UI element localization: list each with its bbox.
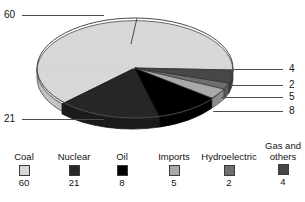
legend-value-imports: 5	[152, 178, 196, 188]
legend-swatch-imports	[169, 165, 180, 176]
legend-value-oil: 8	[104, 178, 140, 188]
legend-label-oil: Oil	[104, 152, 140, 163]
callout-value-imports: 5	[289, 92, 295, 102]
legend-swatch-nuclear	[69, 165, 80, 176]
callout-value-gas-and-others: 4	[289, 64, 295, 74]
legend-item-coal: Coal 60	[2, 152, 46, 188]
legend-swatch-hydroelectric	[224, 165, 235, 176]
pie-chart-graphic	[0, 0, 305, 145]
legend-label-imports: Imports	[152, 152, 196, 163]
legend-item-hydroelectric: Hydroelectric 2	[196, 152, 262, 188]
chart-legend: Coal 60 Nuclear 21 Oil 8 Imports 5 Hydro…	[0, 146, 305, 202]
leader-line-imports	[221, 97, 283, 98]
legend-value-hydroelectric: 2	[196, 178, 262, 188]
leader-line-oil	[213, 111, 283, 112]
legend-swatch-coal	[19, 165, 30, 176]
leader-line-coal	[22, 15, 104, 16]
legend-value-gas-and-others: 4	[262, 177, 304, 187]
callout-value-nuclear: 21	[4, 114, 15, 124]
legend-label-nuclear: Nuclear	[46, 152, 102, 163]
legend-item-oil: Oil 8	[104, 152, 140, 188]
callout-value-hydroelectric: 2	[289, 80, 295, 90]
legend-value-nuclear: 21	[46, 178, 102, 188]
pie-chart: 60 21 4 2 5 8	[0, 0, 305, 145]
legend-item-imports: Imports 5	[152, 152, 196, 188]
callout-value-oil: 8	[289, 106, 295, 116]
legend-swatch-gas-and-others	[278, 164, 289, 175]
legend-label-hydroelectric: Hydroelectric	[196, 152, 262, 163]
legend-value-coal: 60	[2, 178, 46, 188]
callout-value-coal: 60	[4, 10, 15, 20]
legend-swatch-oil	[117, 165, 128, 176]
legend-label-gas-and-others: Gas and others	[262, 141, 304, 162]
leader-line-hydroelectric	[229, 85, 283, 86]
leader-line-nuclear	[22, 119, 104, 120]
legend-item-nuclear: Nuclear 21	[46, 152, 102, 188]
legend-item-gas-and-others: Gas and others 4	[262, 141, 304, 187]
legend-label-coal: Coal	[2, 152, 46, 163]
leader-line-gas-and-others	[233, 69, 283, 70]
